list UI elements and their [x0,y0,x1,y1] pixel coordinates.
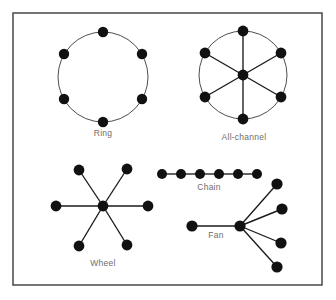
fan-node-1 [271,178,282,189]
all-channel-node-5 [200,48,211,59]
all-channel-node-4 [200,92,211,103]
chain-node-1 [176,169,186,179]
fan-node-2 [276,203,287,214]
wheel-node-0 [74,165,85,176]
all-channel-node-1 [276,48,287,59]
network-topology-figure: Ring All-channel Wheel Chain Fan [0,0,336,300]
label-chain: Chain [197,182,220,192]
chain-node-0 [157,169,167,179]
chain-node-3 [214,169,224,179]
fan-node-0 [186,220,197,231]
fan-node-3 [275,237,286,248]
fan-hub-node [234,220,245,231]
label-all-channel: All-channel [222,132,267,142]
ring-node-2 [137,94,147,104]
all-channel-node-2 [276,92,287,103]
wheel-hub-node [98,201,109,212]
ring-node-0 [98,27,108,37]
all-channel-node-6 [238,70,249,81]
label-ring: Ring [94,128,113,138]
ring-node-4 [59,94,69,104]
all-channel-node-3 [238,114,249,125]
all-channel-node-0 [238,26,249,37]
topology-diagram-canvas: Ring All-channel Wheel Chain Fan [0,0,336,300]
chain-node-2 [195,169,205,179]
wheel-node-3 [122,240,133,251]
label-fan: Fan [208,230,223,240]
wheel-node-5 [51,201,62,212]
ring-node-1 [137,49,147,59]
chain-node-4 [233,169,243,179]
ring-node-3 [98,117,108,127]
wheel-node-2 [143,201,154,212]
fan-node-4 [271,261,282,272]
ring-node-5 [59,49,69,59]
wheel-node-4 [74,241,85,252]
label-wheel: Wheel [90,258,115,268]
wheel-node-1 [122,164,133,175]
chain-node-5 [252,169,262,179]
